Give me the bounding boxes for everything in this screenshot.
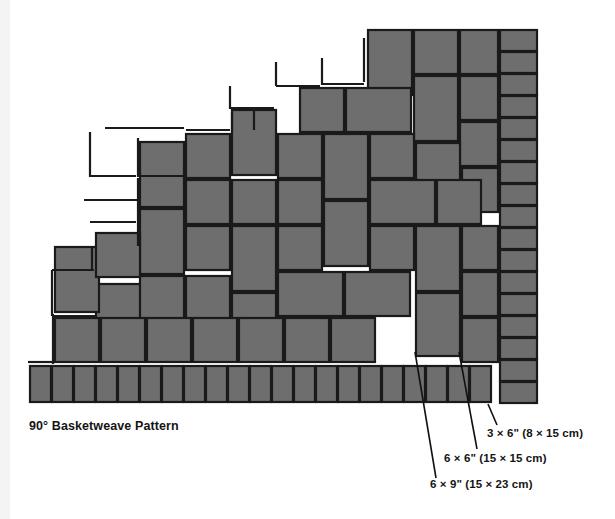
tile-3x6	[96, 366, 117, 402]
tile-3x6	[206, 366, 227, 402]
tile-6x6	[55, 318, 99, 362]
tile-6x9-horizontal	[345, 272, 410, 316]
tile-3x6	[500, 140, 537, 161]
tile-6x9-vertical	[140, 142, 184, 207]
tile-3x6	[162, 366, 183, 402]
tile-6x6	[147, 318, 191, 362]
basketweave-diagram: 90° Basketweave Pattern 3 × 6" (8 × 15 c…	[0, 0, 615, 519]
tile-3x6	[500, 228, 537, 249]
tile-6x6	[239, 318, 283, 362]
tile-3x6	[470, 366, 491, 402]
tile-6x9-vertical	[368, 30, 412, 95]
callout-label-6x6: 6 × 6" (15 × 15 cm)	[444, 452, 547, 464]
page-title: 90° Basketweave Pattern	[29, 419, 179, 433]
tile-3x6	[228, 366, 249, 402]
tile-3x6	[74, 366, 95, 402]
tile-6x9-vertical	[324, 201, 368, 266]
tile-6x6	[437, 180, 481, 224]
tile-6x9-horizontal	[346, 88, 411, 132]
tile-6x6	[370, 134, 414, 178]
tile-6x6	[278, 134, 322, 178]
tile-3x6	[118, 366, 139, 402]
tile-3x6	[52, 366, 73, 402]
tile-6x9-vertical	[232, 226, 276, 291]
tile-6x6	[370, 226, 414, 270]
tile-pattern-canvas	[0, 0, 615, 519]
tile-3x6	[250, 366, 271, 402]
tile-3x6	[500, 74, 537, 95]
tile-6x6	[186, 180, 230, 224]
tile-3x6	[294, 366, 315, 402]
stack-column-right	[500, 30, 537, 403]
tile-3x6	[500, 30, 537, 51]
tile-3x6	[382, 366, 403, 402]
tile-6x9-vertical	[416, 226, 460, 291]
tile-3x6	[500, 162, 537, 183]
tile-6x6	[331, 318, 375, 362]
tile-6x6	[193, 318, 237, 362]
callout-label-6x9: 6 × 9" (15 × 23 cm)	[430, 478, 533, 490]
tile-6x6	[278, 226, 322, 270]
tile-3x6	[500, 316, 537, 337]
tile-6x6	[414, 30, 458, 74]
tile-3x6	[500, 206, 537, 227]
tile-3x6	[338, 366, 359, 402]
tile-6x6	[232, 180, 276, 224]
tile-3x6	[500, 250, 537, 271]
tile-6x6	[300, 88, 344, 132]
tile-3x6	[500, 294, 537, 315]
tile-6x6	[460, 122, 498, 166]
tile-6x9-vertical	[324, 134, 368, 199]
tile-3x6	[360, 366, 381, 402]
tile-6x6	[462, 318, 498, 362]
tile-3x6	[184, 366, 205, 402]
tile-3x6	[500, 360, 537, 381]
tile-6x6	[186, 134, 230, 178]
tile-3x6	[500, 118, 537, 139]
tile-3x6	[500, 96, 537, 117]
tile-3x6	[500, 184, 537, 205]
tile-6x6	[462, 226, 498, 270]
tile-6x6	[460, 30, 498, 74]
tile-6x6	[462, 272, 498, 316]
tile-6x6	[186, 226, 230, 270]
tile-3x6	[30, 366, 51, 402]
tile-3x6	[500, 382, 537, 403]
left-page-edge	[0, 0, 10, 519]
tile-6x6	[186, 276, 230, 320]
tile-6x9-vertical	[140, 209, 184, 274]
tile-6x6	[460, 76, 498, 120]
tile-3x6	[426, 366, 447, 402]
tile-6x6	[278, 180, 322, 224]
tile-3x6	[500, 52, 537, 73]
tile-6x9-vertical	[416, 293, 460, 356]
tile-6x6	[140, 276, 184, 320]
tile-6x9-vertical	[414, 76, 458, 141]
tile-3x6	[140, 366, 161, 402]
tile-6x6	[96, 233, 140, 277]
tile-6x6	[285, 318, 329, 362]
tile-3x6	[316, 366, 337, 402]
tile-3x6	[500, 272, 537, 293]
tile-6x6	[101, 318, 145, 362]
tile-3x6	[500, 338, 537, 359]
tile-3x6	[272, 366, 293, 402]
tile-6x9-horizontal	[370, 180, 435, 224]
callout-label-3x6: 3 × 6" (8 × 15 cm)	[487, 427, 583, 439]
tile-6x9-horizontal	[278, 272, 343, 316]
tile-3x6	[448, 366, 469, 402]
